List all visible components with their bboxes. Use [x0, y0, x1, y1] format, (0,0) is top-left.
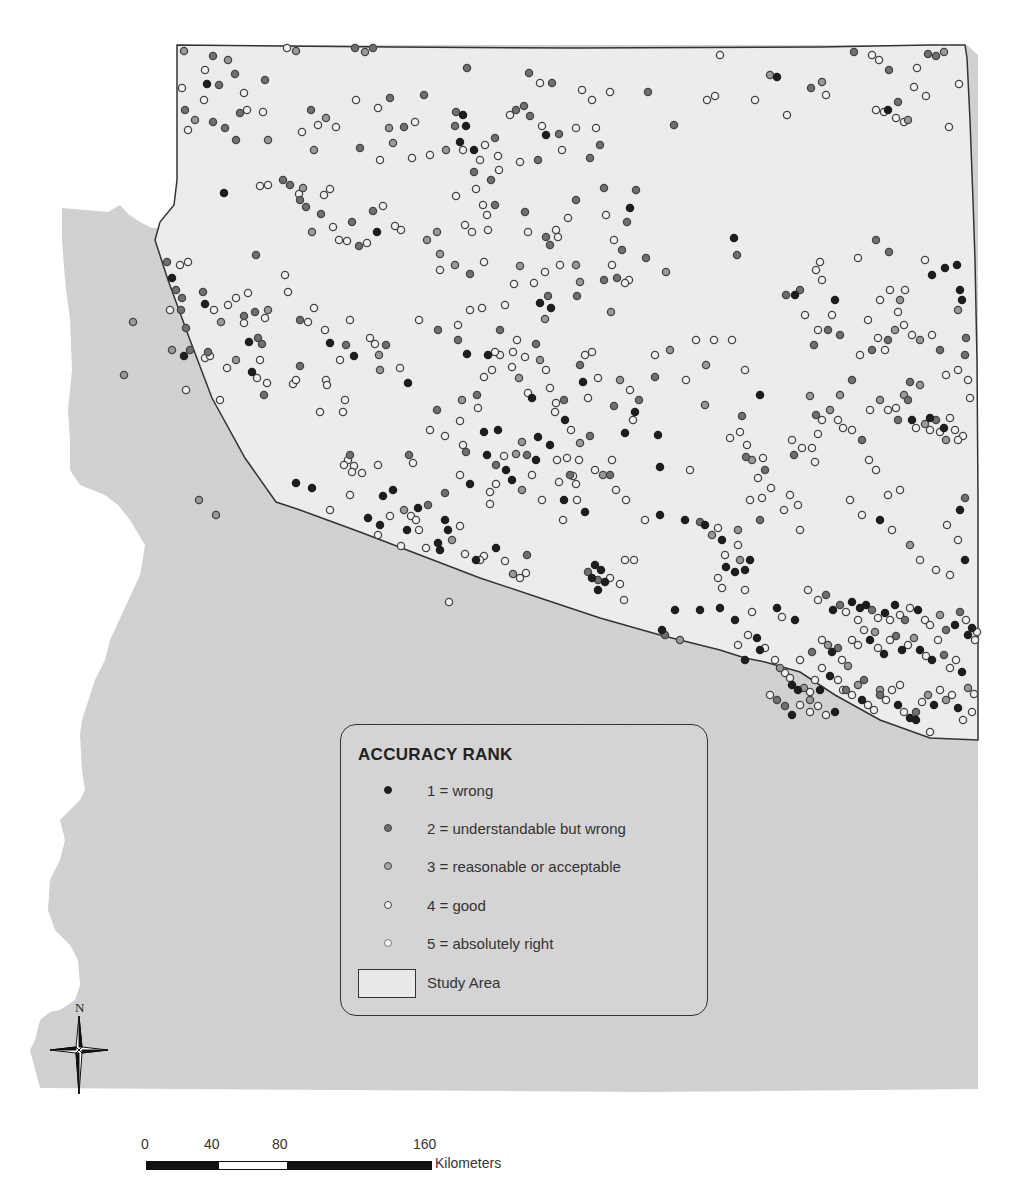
survey-point-rank-2	[884, 336, 891, 343]
survey-point-rank-2	[466, 270, 473, 277]
survey-point-rank-4	[558, 146, 565, 153]
survey-point-rank-4	[608, 456, 615, 463]
survey-point-rank-4	[522, 569, 529, 576]
survey-point-rank-1	[588, 574, 595, 581]
survey-point-rank-1	[403, 526, 410, 533]
survey-point-rank-4	[771, 656, 778, 663]
survey-point-rank-2	[548, 79, 555, 86]
survey-point-rank-1	[201, 300, 208, 307]
survey-point-rank-4	[868, 51, 875, 58]
survey-point-rank-1	[908, 416, 915, 423]
survey-point-rank-3	[180, 47, 187, 54]
survey-point-rank-3	[436, 250, 443, 257]
survey-point-rank-4	[626, 386, 633, 393]
survey-point-rank-4	[542, 366, 549, 373]
scale-tick-80: 80	[272, 1136, 288, 1152]
survey-point-rank-4	[578, 86, 585, 93]
survey-point-rank-2	[279, 176, 286, 183]
survey-point-rank-2	[651, 373, 658, 380]
survey-point-rank-4	[340, 461, 347, 468]
survey-point-rank-3	[806, 392, 813, 399]
survey-point-rank-4	[456, 471, 463, 478]
survey-point-rank-2	[232, 136, 239, 143]
survey-point-rank-2	[420, 91, 427, 98]
survey-point-rank-4	[441, 432, 448, 439]
survey-point-rank-2	[600, 276, 607, 283]
survey-point-rank-4	[814, 326, 821, 333]
survey-point-rank-2	[178, 294, 185, 301]
survey-point-rank-4	[806, 708, 813, 715]
survey-point-rank-4	[283, 44, 290, 51]
survey-point-rank-4	[374, 104, 381, 111]
survey-point-rank-4	[818, 636, 825, 643]
survey-point-rank-4	[946, 571, 953, 578]
survey-point-rank-1	[626, 204, 633, 211]
survey-point-rank-1	[788, 711, 795, 718]
survey-point-rank-1	[953, 261, 960, 268]
survey-point-rank-4	[874, 644, 881, 651]
survey-point-rank-2	[542, 233, 549, 240]
survey-point-rank-3	[212, 511, 219, 518]
survey-point-rank-4	[703, 96, 710, 103]
survey-point-rank-2	[351, 44, 358, 51]
survey-point-rank-4	[456, 522, 463, 529]
survey-point-rank-3	[844, 662, 851, 669]
survey-point-rank-1	[828, 648, 835, 655]
survey-point-rank-2	[512, 106, 519, 113]
survey-point-rank-4	[872, 106, 879, 113]
survey-point-rank-2	[956, 608, 963, 615]
survey-point-rank-4	[310, 304, 317, 311]
survey-point-rank-4	[758, 494, 765, 501]
survey-point-rank-4	[865, 456, 872, 463]
survey-point-rank-3	[129, 318, 136, 325]
survey-point-rank-2	[555, 130, 562, 137]
survey-point-rank-2	[534, 156, 541, 163]
survey-point-rank-4	[786, 674, 793, 681]
survey-point-rank-3	[308, 228, 315, 235]
survey-point-rank-4	[581, 351, 588, 358]
scale-segment-3	[288, 1161, 432, 1170]
survey-point-rank-4	[610, 236, 617, 243]
scale-tick-0: 0	[141, 1136, 149, 1152]
survey-point-rank-4	[783, 111, 790, 118]
survey-point-rank-3	[376, 366, 383, 373]
survey-point-rank-4	[788, 436, 795, 443]
survey-point-rank-4	[456, 417, 463, 424]
survey-point-rank-2	[182, 324, 189, 331]
survey-point-rank-4	[892, 114, 899, 121]
survey-point-rank-1	[826, 672, 833, 679]
survey-point-rank-1	[731, 616, 738, 623]
survey-point-rank-4	[341, 396, 348, 403]
survey-point-rank-4	[376, 156, 383, 163]
survey-point-rank-2	[901, 616, 908, 623]
survey-point-rank-1	[956, 286, 963, 293]
survey-point-rank-4	[332, 123, 339, 130]
survey-point-rank-4	[721, 551, 728, 558]
survey-point-rank-4	[629, 416, 636, 423]
survey-point-rank-4	[962, 616, 969, 623]
survey-point-rank-4	[896, 486, 903, 493]
survey-point-rank-4	[366, 334, 373, 341]
survey-point-rank-1	[434, 539, 441, 546]
survey-point-rank-4	[559, 516, 566, 523]
survey-point-rank-4	[488, 366, 495, 373]
survey-point-rank-4	[556, 261, 563, 268]
survey-point-rank-1	[245, 338, 252, 345]
survey-point-rank-1	[876, 516, 883, 523]
survey-point-rank-4	[264, 181, 271, 188]
survey-point-rank-1	[508, 476, 515, 483]
survey-point-rank-2	[433, 406, 440, 413]
survey-point-rank-4	[794, 501, 801, 508]
survey-point-rank-2	[462, 448, 469, 455]
survey-point-rank-1	[441, 516, 448, 523]
survey-point-rank-4	[726, 434, 733, 441]
survey-point-rank-4	[486, 500, 493, 507]
survey-point-rank-4	[959, 716, 966, 723]
survey-point-rank-2	[860, 676, 867, 683]
survey-point-rank-4	[741, 366, 748, 373]
survey-point-rank-2	[317, 210, 324, 217]
survey-point-rank-4	[828, 311, 835, 318]
survey-point-rank-4	[412, 516, 419, 523]
survey-point-rank-4	[572, 480, 579, 487]
survey-point-rank-4	[801, 311, 808, 318]
